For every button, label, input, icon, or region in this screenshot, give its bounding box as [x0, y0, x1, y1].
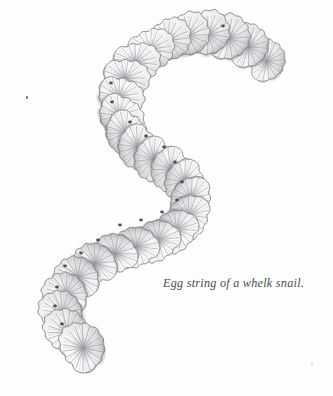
capsule-aperture: [109, 82, 113, 85]
capsule-aperture: [53, 305, 57, 308]
whelk-egg-string-illustration: [0, 0, 333, 396]
capsule-aperture: [144, 135, 148, 138]
egg-capsule: [56, 318, 109, 377]
capsule-aperture: [60, 323, 64, 326]
capsule-aperture: [160, 211, 164, 214]
capsule-aperture: [79, 252, 83, 255]
capsule-aperture: [162, 146, 166, 149]
capsule-aperture: [139, 219, 143, 222]
capsule-aperture: [180, 181, 184, 184]
capsule-aperture: [110, 101, 114, 104]
capsule-aperture: [96, 239, 100, 242]
capsule-aperture: [175, 199, 179, 202]
illustration-plate: Egg string of a whelk snail.: [0, 0, 333, 396]
capsule-aperture: [173, 161, 177, 164]
capsule-aperture: [221, 25, 225, 28]
capsule-aperture: [55, 286, 59, 289]
figure-caption: Egg string of a whelk snail.: [163, 276, 323, 290]
capsule-aperture: [118, 224, 122, 227]
capsule-aperture: [128, 121, 132, 124]
stray-speck-lower-right: [311, 363, 313, 366]
egg-capsule-chain: [32, 3, 291, 377]
capsule-aperture: [63, 265, 67, 268]
